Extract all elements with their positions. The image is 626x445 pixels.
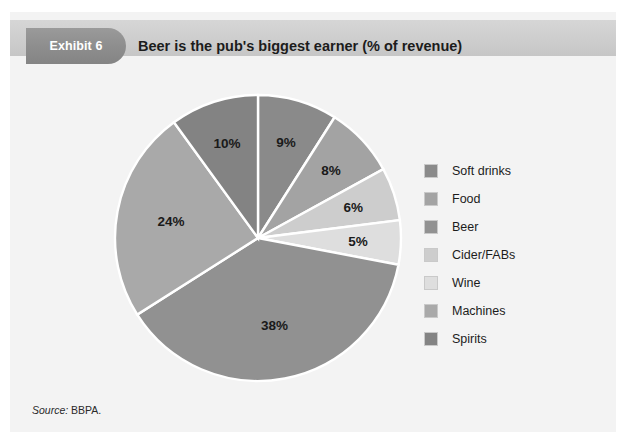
pie-chart-svg: 9%8%6%5%38%24%10% [112, 92, 404, 384]
legend-swatch [424, 220, 438, 234]
legend-swatch [424, 164, 438, 178]
source-value: BBPA. [71, 404, 101, 416]
pie-slice-label: 9% [276, 135, 296, 150]
legend-item: Machines [424, 297, 594, 325]
legend-swatch [424, 276, 438, 290]
legend-item: Wine [424, 269, 594, 297]
source-note: Source: BBPA. [32, 404, 101, 416]
legend-item: Spirits [424, 325, 594, 353]
exhibit-panel: Exhibit 6 Beer is the pub's biggest earn… [10, 12, 616, 432]
pie-slice-label: 24% [157, 214, 184, 229]
legend-swatch [424, 192, 438, 206]
legend-item-label: Beer [452, 220, 478, 234]
chart-legend: Soft drinksFoodBeerCider/FABsWineMachine… [424, 157, 594, 353]
legend-item-label: Soft drinks [452, 164, 511, 178]
legend-swatch [424, 304, 438, 318]
pie-slice-label: 10% [214, 136, 241, 151]
pie-slice-label: 6% [343, 200, 363, 215]
legend-item-label: Food [452, 192, 481, 206]
legend-swatch [424, 332, 438, 346]
legend-item: Food [424, 185, 594, 213]
chart-area: 9%8%6%5%38%24%10% Soft drinksFoodBeerCid… [10, 56, 616, 396]
pie-slice-label: 38% [261, 318, 288, 333]
pie-slice-label: 8% [321, 163, 341, 178]
legend-item: Beer [424, 213, 594, 241]
legend-item-label: Spirits [452, 332, 487, 346]
pie-chart: 9%8%6%5%38%24%10% [112, 92, 404, 384]
legend-item-label: Cider/FABs [452, 248, 515, 262]
legend-item: Cider/FABs [424, 241, 594, 269]
pie-slice-label: 5% [348, 234, 368, 249]
legend-item: Soft drinks [424, 157, 594, 185]
legend-item-label: Wine [452, 276, 480, 290]
exhibit-number-label: Exhibit 6 [50, 39, 103, 53]
legend-swatch [424, 248, 438, 262]
exhibit-header-band: Exhibit 6 Beer is the pub's biggest earn… [10, 20, 616, 56]
legend-item-label: Machines [452, 304, 506, 318]
source-label: Source: [32, 404, 68, 416]
